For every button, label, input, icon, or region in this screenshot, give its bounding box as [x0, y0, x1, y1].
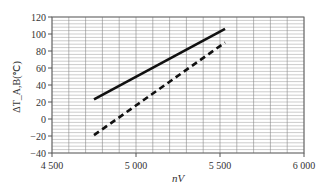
x-tick-label: 5 500 [209, 160, 232, 171]
y-tick-label: 20 [36, 97, 46, 108]
x-tick-label: 5 000 [125, 160, 148, 171]
x-axis: 4 5005 0005 5006 000 [41, 153, 316, 171]
y-tick-label: 40 [36, 80, 46, 91]
x-axis-label: nV [172, 172, 186, 184]
line-chart: −40−20020406080100120 4 5005 0005 5006 0… [0, 0, 323, 193]
x-tick-label: 6 000 [293, 160, 316, 171]
x-tick-label: 4 500 [41, 160, 64, 171]
y-tick-label: −20 [30, 131, 46, 142]
y-tick-label: 100 [31, 29, 46, 40]
grid [52, 17, 304, 153]
y-tick-label: 80 [36, 46, 46, 57]
y-axis: −40−20020406080100120 [30, 12, 52, 159]
y-axis-label: ΔT_A,B(℃) [11, 61, 23, 113]
y-tick-label: 0 [41, 114, 46, 125]
y-tick-label: 60 [36, 63, 46, 74]
y-tick-label: −40 [30, 148, 46, 159]
y-tick-label: 120 [31, 12, 46, 23]
